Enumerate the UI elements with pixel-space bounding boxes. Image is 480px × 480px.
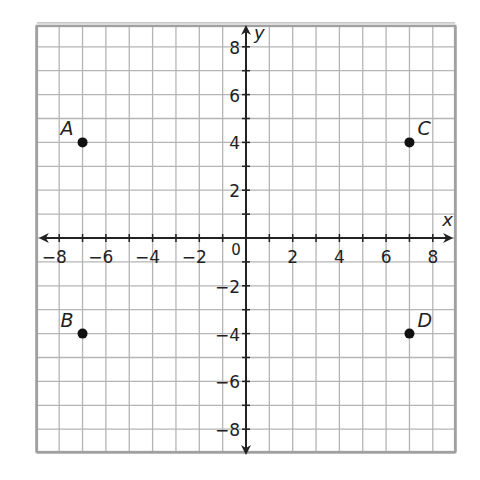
y-tick-label: −8 [215,420,240,440]
point-c [404,137,414,147]
point-label: D [417,309,432,331]
origin-label: 0 [231,241,241,259]
point-label: B [61,309,74,331]
y-axis-label: y [253,22,265,43]
point-label: C [417,117,431,139]
x-axis-label: x [441,209,453,230]
y-tick-label: −4 [215,325,240,345]
y-tick-label: 4 [229,133,240,153]
point-a [78,137,88,147]
y-tick-label: 8 [229,38,240,58]
y-tick-label: 6 [229,86,240,106]
point-d [404,329,414,339]
x-tick-label: 6 [381,247,392,267]
x-tick-label: −6 [88,247,113,267]
y-tick-label: −6 [215,372,240,392]
point-label: A [59,117,74,139]
x-tick-label: 8 [427,247,438,267]
axes [39,25,453,455]
tick-labels: −8−6−4−224688642−2−4−6−80yx [42,22,453,440]
y-tick-label: −2 [215,277,240,297]
x-tick-label: 4 [334,247,345,267]
y-tick-label: 2 [229,181,240,201]
x-tick-label: −2 [182,247,207,267]
x-tick-label: 2 [287,247,298,267]
coordinate-plane: −8−6−4−224688642−2−4−6−80yx ABCD [0,0,480,480]
point-b [78,329,88,339]
x-tick-label: −4 [135,247,160,267]
x-tick-label: −8 [42,247,67,267]
